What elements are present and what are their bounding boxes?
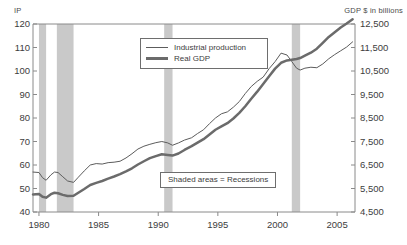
legend-line-icon-industrial-production [146, 47, 168, 48]
x-tick-1990: 1990 [138, 219, 178, 230]
x-axis-ticklabels: 198019851990199520002005 [0, 0, 407, 245]
x-tick-1980: 1980 [19, 219, 59, 230]
legend-label-real-gdp: Real GDP [174, 54, 210, 63]
x-tick-2005: 2005 [317, 219, 357, 230]
x-tick-1995: 1995 [198, 219, 238, 230]
recession-note: Shaded areas = Recessions [160, 172, 276, 188]
chart-legend: Industrial production Real GDP [140, 38, 268, 69]
chart-container: IP GDP $ in billions 4050607080901001101… [0, 0, 407, 245]
legend-item-industrial-production: Industrial production [146, 42, 262, 53]
x-tick-1985: 1985 [79, 219, 119, 230]
legend-label-industrial-production: Industrial production [174, 43, 246, 52]
x-tick-2000: 2000 [257, 219, 297, 230]
legend-item-real-gdp: Real GDP [146, 53, 262, 64]
legend-line-icon-real-gdp [146, 57, 168, 60]
